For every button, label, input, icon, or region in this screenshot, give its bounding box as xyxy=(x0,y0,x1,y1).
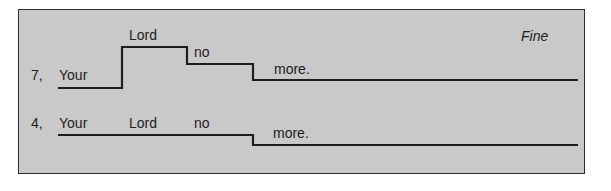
word-your: Your xyxy=(59,116,87,130)
word-no: no xyxy=(194,45,210,59)
fine-marker: Fine xyxy=(521,29,548,43)
row-label-7: 7, xyxy=(31,68,43,82)
word-more: more. xyxy=(274,62,310,76)
contour-line-row-7 xyxy=(58,47,578,88)
word-lord: Lord xyxy=(129,28,157,42)
word-your: Your xyxy=(59,68,87,82)
word-lord: Lord xyxy=(129,116,157,130)
word-more: more. xyxy=(273,126,309,140)
pitch-contours xyxy=(0,0,611,191)
word-no: no xyxy=(194,116,210,130)
row-label-4: 4, xyxy=(31,116,43,130)
contour-line-row-4 xyxy=(58,135,578,145)
